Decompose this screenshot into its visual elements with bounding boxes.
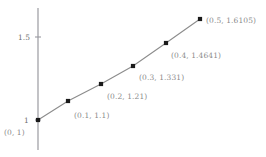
data-point-4 — [164, 41, 168, 45]
data-point-0-label: (0, 1) — [4, 129, 25, 137]
ytick-1-label: 1 — [24, 117, 29, 125]
data-point-3 — [131, 64, 135, 68]
data-point-5-label: (0.5, 1.6105) — [206, 17, 256, 25]
ytick-1-5-label: 1.5 — [18, 34, 30, 42]
data-markers — [36, 17, 202, 122]
data-point-4-label: (0.4, 1.4641) — [171, 52, 221, 60]
series-polyline — [38, 19, 200, 120]
data-point-2 — [99, 82, 103, 86]
y-axis — [35, 8, 41, 150]
data-point-2-label: (0.2, 1.21) — [107, 93, 147, 101]
data-line — [38, 19, 200, 120]
data-point-0 — [36, 118, 40, 122]
plot-area: 11.5 (0, 1)(0.1, 1.1)(0.2, 1.21)(0.3, 1.… — [0, 0, 266, 157]
data-point-5 — [198, 17, 202, 21]
data-point-1 — [66, 99, 70, 103]
data-point-3-label: (0.3, 1.331) — [139, 74, 184, 82]
data-point-1-label: (0.1, 1.1) — [74, 112, 109, 120]
